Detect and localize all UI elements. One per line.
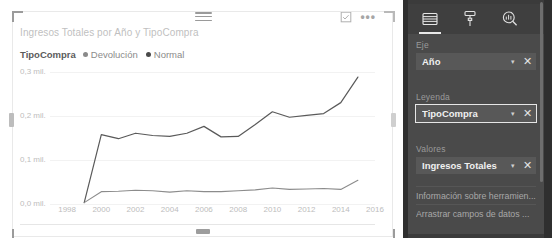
section-leyenda: Leyenda TipoCompra ▾ ✕ (408, 92, 544, 122)
legend-swatch-devolucion (83, 52, 88, 57)
field-name-tipocompra: TipoCompra (422, 108, 511, 119)
resize-handle-top-right[interactable] (384, 11, 395, 22)
ytick-label-0: 0,0 mil. (20, 199, 46, 208)
chevron-down-icon[interactable]: ▾ (511, 162, 515, 170)
pane-right-gutter (544, 0, 552, 238)
chart-lines[interactable] (50, 67, 375, 204)
section-label-leyenda: Leyenda (416, 92, 536, 102)
section-eje: Eje Año ▾ ✕ (408, 40, 544, 70)
ytick-label-1: 0,1 mil. (20, 155, 46, 164)
chart-legend: TipoCompra Devolución Normal (20, 49, 192, 60)
pane-tab-strip[interactable] (408, 4, 544, 34)
section-label-valores: Valores (416, 144, 536, 154)
visual-header-actions[interactable]: ••• (340, 11, 376, 23)
report-canvas[interactable]: Ingresos Totales por Año y TipoCompra Ti… (0, 0, 400, 238)
resize-handle-bottom-center[interactable] (196, 229, 210, 234)
plot-area[interactable]: 0,3 mil. 0,2 mil. 0,1 mil. 0,0 mil. 1998… (20, 67, 375, 217)
xtick-label-2002: 2002 (127, 205, 145, 214)
paint-roller-icon (462, 10, 478, 28)
xtick-label-2004: 2004 (161, 205, 179, 214)
power-bi-report-screen: Ingresos Totales por Año y TipoCompra Ti… (0, 0, 552, 238)
section-valores: Valores Ingresos Totales ▾ ✕ (408, 144, 544, 174)
format-tab[interactable] (458, 7, 482, 31)
resize-handle-bottom-left[interactable] (12, 229, 23, 238)
legend-item-normal[interactable]: Normal (146, 49, 185, 60)
fields-tab[interactable] (418, 7, 442, 31)
field-well-leyenda[interactable]: TipoCompra ▾ ✕ (416, 105, 536, 122)
xtick-label-2006: 2006 (195, 205, 213, 214)
remove-field-icon[interactable]: ✕ (523, 160, 532, 171)
field-name-ano: Año (422, 56, 511, 67)
field-well-eje[interactable]: Año ▾ ✕ (416, 53, 536, 70)
legend-label-devolucion: Devolución (91, 49, 138, 60)
pane-scrollbar[interactable] (540, 2, 543, 182)
xtick-label-1998: 1998 (58, 205, 76, 214)
fields-icon (421, 11, 439, 27)
legend-title: TipoCompra (20, 49, 76, 60)
legend-label-normal: Normal (154, 49, 185, 60)
dropzone-list: Información sobre herramien... Arrastrar… (408, 186, 544, 222)
analytics-tab[interactable] (498, 7, 522, 31)
line-chart-visual[interactable]: Ingresos Totales por Año y TipoCompra Ti… (6, 5, 388, 233)
x-axis-line (20, 224, 375, 225)
xtick-label-2000: 2000 (92, 205, 110, 214)
dropzone-tooltips[interactable]: Información sobre herramien... (416, 186, 536, 204)
focus-mode-icon[interactable] (340, 11, 352, 23)
xtick-label-2016: 2016 (366, 205, 384, 214)
analytics-magnifier-icon (501, 10, 519, 28)
dropzone-drag-fields[interactable]: Arrastrar campos de datos ... (416, 204, 536, 222)
xtick-label-2008: 2008 (229, 205, 247, 214)
remove-field-icon[interactable]: ✕ (523, 56, 532, 67)
ytick-label-3: 0,3 mil. (20, 67, 46, 76)
xtick-label-2012: 2012 (298, 205, 316, 214)
resize-handle-middle-right[interactable] (391, 113, 396, 127)
legend-item-devolucion[interactable]: Devolución (83, 49, 138, 60)
series-line-devolucion (84, 180, 358, 202)
visualizations-pane[interactable]: Eje Año ▾ ✕ Leyenda TipoCompra ▾ ✕ Valor… (403, 0, 552, 238)
resize-handle-top-left[interactable] (12, 11, 23, 22)
resize-handle-bottom-right[interactable] (384, 229, 395, 238)
section-label-eje: Eje (416, 40, 536, 50)
xtick-label-2014: 2014 (332, 205, 350, 214)
chevron-down-icon[interactable]: ▾ (511, 58, 515, 66)
series-line-normal (84, 77, 358, 203)
series-svg (50, 67, 375, 204)
remove-field-icon[interactable]: ✕ (523, 108, 532, 119)
more-options-icon[interactable]: ••• (360, 13, 376, 21)
xtick-label-2010: 2010 (263, 205, 281, 214)
field-well-valores[interactable]: Ingresos Totales ▾ ✕ (416, 157, 536, 174)
chevron-down-icon[interactable]: ▾ (511, 110, 515, 118)
legend-swatch-normal (146, 52, 151, 57)
ytick-label-2: 0,2 mil. (20, 111, 46, 120)
x-axis: 1998200020022004200620082010201220142016 (50, 205, 375, 221)
drag-handle-icon[interactable] (195, 12, 212, 21)
visual-title: Ingresos Totales por Año y TipoCompra (20, 27, 199, 38)
field-name-ingresos-totales: Ingresos Totales (422, 160, 511, 171)
resize-handle-middle-left[interactable] (9, 113, 14, 127)
